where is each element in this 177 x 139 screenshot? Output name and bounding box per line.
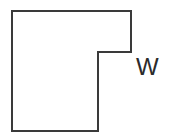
notched-rectangle-shape [12,11,131,131]
side-label-w: W [136,55,159,79]
geometry-figure-canvas: W [0,0,177,139]
